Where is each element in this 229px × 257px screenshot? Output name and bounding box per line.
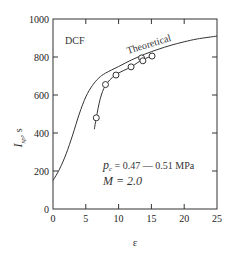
data-point [113,72,119,78]
data-point [102,82,108,88]
series-group [53,36,217,180]
pc-text: = 0.47 — 0.51 MPa [112,160,195,171]
mach-annotation: M = 2.0 [102,174,142,188]
y-tick-label: 600 [34,90,49,101]
x-tick-label: 15 [146,213,156,224]
pc-annotation: pc = 0.47 — 0.51 MPa [102,158,195,173]
data-point [140,58,146,64]
x-tick-label: 25 [212,213,222,224]
x-tick-label: 5 [83,213,88,224]
x-tick-label: 0 [51,213,56,224]
data-point [128,64,134,70]
series-line-experimental-fit [94,55,154,129]
x-axis-label: ε [133,236,138,248]
dcf-label: DCF [65,35,85,46]
pc-symbol: p [102,158,109,172]
x-tick-label: 20 [179,213,189,224]
chart: 0510152025 02004006008001000 DCF Theoret… [0,0,229,257]
x-tick-label: 10 [114,213,124,224]
series-line-theoretical [53,36,217,180]
data-point [149,53,155,59]
y-tick-label: 200 [34,166,49,177]
y-axis-label: Isp, s [11,128,27,148]
y-tick-label: 400 [34,128,49,139]
data-point [93,115,99,121]
y-tick-label: 0 [44,204,49,215]
y-tick-label: 800 [34,52,49,63]
y-axis-label-unit: , s [13,128,24,137]
y-tick-label: 1000 [29,14,49,25]
